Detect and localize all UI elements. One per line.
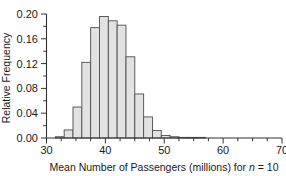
y-tick-label: 0.20 xyxy=(17,8,38,20)
y-tick-label: 0.12 xyxy=(17,58,38,70)
x-axis-title: Mean Number of Passengers (millions) for… xyxy=(49,161,278,173)
x-tick-label: 30 xyxy=(40,144,52,156)
histogram-bar xyxy=(82,62,91,138)
histogram-bar xyxy=(91,28,100,138)
y-tick-label: 0.16 xyxy=(17,33,38,45)
histogram-bar xyxy=(126,57,135,138)
x-tick-label: 50 xyxy=(158,144,170,156)
histogram-bar xyxy=(64,130,73,138)
histogram-bar xyxy=(99,16,108,138)
x-tick-label: 60 xyxy=(217,144,229,156)
x-tick-label: 70 xyxy=(276,144,286,156)
y-axis-title: Relative Frequency xyxy=(0,32,12,123)
histogram-bar xyxy=(152,131,161,138)
histogram-chart: 3040506070 0.000.040.080.120.160.20 Mean… xyxy=(0,0,286,176)
histogram-bar xyxy=(144,117,153,138)
y-tick-label: 0.04 xyxy=(17,107,38,119)
histogram-figure: 3040506070 0.000.040.080.120.160.20 Mean… xyxy=(0,0,286,176)
y-tick-label: 0.08 xyxy=(17,82,38,94)
histogram-bar xyxy=(135,94,144,138)
x-tick-label: 40 xyxy=(99,144,111,156)
histogram-bar xyxy=(73,107,82,138)
histogram-bar xyxy=(108,21,117,138)
y-tick-label: 0.00 xyxy=(17,132,38,144)
histogram-bar xyxy=(117,25,126,138)
